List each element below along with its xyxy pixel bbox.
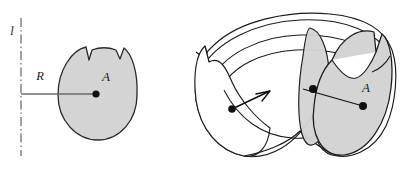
solid-of-revolution-figure: l R A: [0, 0, 402, 169]
axis-label: l: [10, 24, 14, 38]
centroid-dot-left: [92, 90, 99, 97]
right-panel-solid: A: [195, 13, 396, 157]
region-label-right: A: [361, 80, 370, 95]
radius-label: R: [35, 69, 44, 83]
region-label-left: A: [101, 69, 110, 84]
centroid-dot-far: [359, 102, 367, 110]
centroid-dot-near: [228, 105, 236, 113]
centroid-dot-mid: [309, 85, 317, 93]
figure-container: l R A: [0, 0, 402, 169]
left-panel-planar-region: l R A: [10, 18, 137, 156]
